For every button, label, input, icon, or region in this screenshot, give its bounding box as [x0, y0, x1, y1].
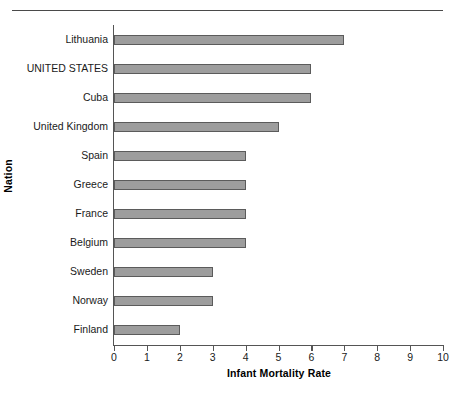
y-axis-tick-label: United Kingdom: [0, 121, 108, 132]
chart-figure: LithuaniaUNITED STATESCubaUnited Kingdom…: [0, 0, 462, 397]
bar: [114, 180, 246, 190]
bar: [114, 296, 213, 306]
bar: [114, 35, 344, 45]
y-axis-tick-label: Belgium: [0, 237, 108, 248]
y-axis-tick-label: France: [0, 208, 108, 219]
bar: [114, 93, 311, 103]
x-axis-tick-label: 9: [397, 351, 423, 363]
y-axis-tick-label: Finland: [0, 324, 108, 335]
x-axis-tick-label: 1: [134, 351, 160, 363]
x-axis-tick-label: 0: [101, 351, 127, 363]
y-axis-tick-label: Sweden: [0, 266, 108, 277]
bar: [114, 209, 246, 219]
y-axis-tick-label: Greece: [0, 179, 108, 190]
x-axis-tick-label: 10: [430, 351, 456, 363]
x-axis-title: Infant Mortality Rate: [114, 367, 444, 379]
y-axis-title: Nation: [2, 146, 14, 206]
y-axis-tick-label: Spain: [0, 150, 108, 161]
y-axis-tick-label: Cuba: [0, 92, 108, 103]
y-axis-tick-label: Norway: [0, 295, 108, 306]
bar: [114, 151, 246, 161]
bar: [114, 267, 213, 277]
x-axis-tick-label: 5: [266, 351, 292, 363]
x-axis-tick-label: 6: [298, 351, 324, 363]
y-axis-tick-label: Lithuania: [0, 34, 108, 45]
y-axis-tick-label: UNITED STATES: [0, 63, 108, 74]
x-axis-tick-label: 8: [364, 351, 390, 363]
x-axis-tick-label: 7: [331, 351, 357, 363]
bar: [114, 64, 311, 74]
bar: [114, 122, 279, 132]
x-axis-tick-label: 3: [200, 351, 226, 363]
x-axis-tick-label: 4: [233, 351, 259, 363]
x-axis-tick-label: 2: [167, 351, 193, 363]
y-axis-tick-labels: LithuaniaUNITED STATESCubaUnited Kingdom…: [0, 0, 108, 397]
bar: [114, 325, 180, 335]
bar: [114, 238, 246, 248]
